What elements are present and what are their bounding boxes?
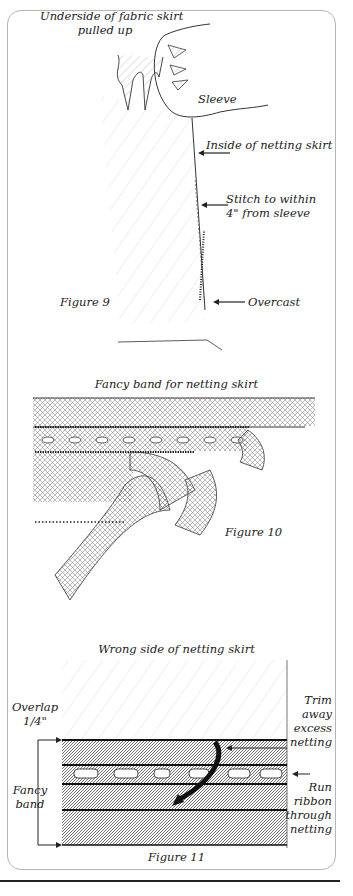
illustrations xyxy=(0,0,353,896)
figure-10-title: Fancy band for netting skirt xyxy=(0,377,353,391)
underside-label-line2: pulled up xyxy=(40,23,170,37)
run-ribbon-label-line1: Run xyxy=(280,780,332,794)
trim-label-line3: excess xyxy=(280,721,332,735)
run-ribbon-label-line3: through xyxy=(280,808,332,822)
inside-netting-label: Inside of netting skirt xyxy=(206,138,332,152)
trim-label-line4: netting xyxy=(280,735,332,749)
overcast-label: Overcast xyxy=(248,295,300,309)
underside-label: Underside of fabric skirt pulled up xyxy=(40,9,170,37)
figure-11-drawing xyxy=(38,660,310,848)
fancy-band-label: Fancy band xyxy=(10,783,50,811)
figure-10-caption: Figure 10 xyxy=(225,525,282,539)
figure-9-caption: Figure 9 xyxy=(60,295,110,309)
figure-11-caption: Figure 11 xyxy=(0,850,353,864)
stitch-label-line1: Stitch to within xyxy=(226,192,306,206)
fancy-band-label-line1: Fancy xyxy=(10,783,50,797)
fancy-band-label-line2: band xyxy=(10,797,50,811)
overlap-label-line2: 1/4" xyxy=(10,714,60,728)
overlap-label-line1: Overlap xyxy=(10,700,60,714)
figure-10-drawing xyxy=(33,398,315,600)
sleeve-label: Sleeve xyxy=(198,92,236,106)
run-ribbon-label-line2: ribbon xyxy=(280,794,332,808)
run-ribbon-label: Run ribbon through netting xyxy=(280,780,332,836)
figure-9-drawing xyxy=(100,24,268,350)
overlap-label: Overlap 1/4" xyxy=(10,700,60,728)
stitch-label: Stitch to within 4" from sleeve xyxy=(226,192,306,220)
stitch-label-line2: 4" from sleeve xyxy=(226,206,306,220)
trim-label-line2: away xyxy=(280,707,332,721)
underside-label-line1: Underside of fabric skirt xyxy=(40,9,170,23)
figure-11-title: Wrong side of netting skirt xyxy=(0,642,353,656)
trim-label: Trim away excess netting xyxy=(280,693,332,749)
run-ribbon-label-line4: netting xyxy=(280,822,332,836)
trim-label-line1: Trim xyxy=(280,693,332,707)
